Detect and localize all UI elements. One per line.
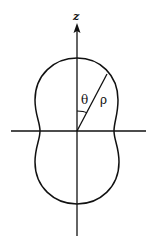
polar-diagram: z θ ρ (0, 0, 154, 248)
theta-label: θ (81, 93, 88, 107)
rho-label: ρ (100, 93, 107, 107)
angle-arc (77, 111, 87, 113)
z-axis-label: z (72, 10, 80, 23)
